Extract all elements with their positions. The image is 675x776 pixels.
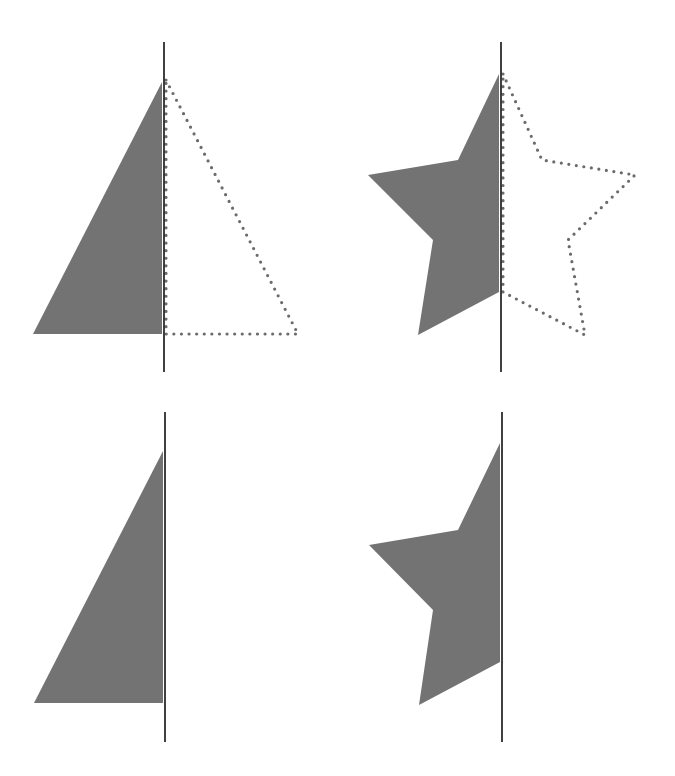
dotted-mirror-star xyxy=(503,74,635,335)
panel-bottom-left xyxy=(34,412,165,742)
panel-bottom-right xyxy=(369,412,502,742)
half-star-shape xyxy=(368,74,499,335)
panel-top-right xyxy=(368,42,635,372)
half-triangle-shape xyxy=(34,451,163,703)
symmetry-diagram xyxy=(0,0,675,776)
dotted-mirror-triangle xyxy=(166,80,298,334)
half-star-shape xyxy=(369,443,500,705)
half-triangle-shape xyxy=(33,82,162,334)
panel-top-left xyxy=(33,42,298,372)
